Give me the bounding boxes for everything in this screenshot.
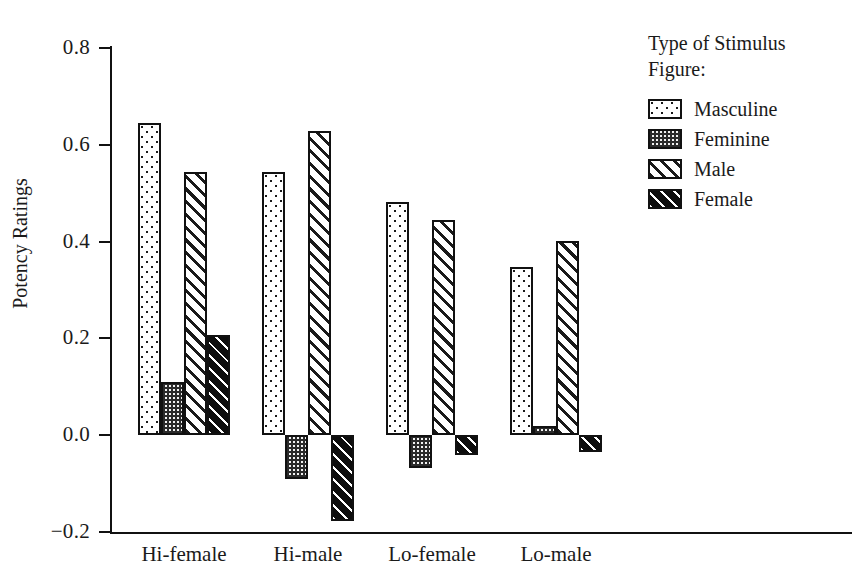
bar-lo-female-masculine bbox=[386, 202, 409, 435]
x-axis-group-label: Lo-male bbox=[476, 542, 636, 566]
y-axis-tick-label: 0.4 bbox=[28, 231, 90, 252]
legend-label: Masculine bbox=[694, 99, 777, 119]
bar-hi-male-masculine bbox=[262, 172, 285, 435]
legend-swatch-icon bbox=[648, 189, 682, 209]
bar-lo-male-male bbox=[556, 241, 579, 435]
x-axis-line bbox=[110, 532, 852, 534]
legend-items: MasculineFeminineMaleFemale bbox=[648, 94, 848, 214]
bar-lo-male-feminine bbox=[533, 426, 556, 435]
bar-hi-female-male bbox=[184, 172, 207, 435]
bar-lo-female-female bbox=[455, 435, 478, 454]
legend-swatch-icon bbox=[648, 99, 682, 119]
legend-row-female: Female bbox=[648, 184, 848, 214]
y-axis-tick-label: 0.6 bbox=[28, 134, 90, 155]
y-axis-tick-label: 0.8 bbox=[28, 37, 90, 58]
legend-label: Male bbox=[694, 159, 735, 179]
chart-figure: 0.80.60.40.20.0−0.2 Hi-femaleHi-maleLo-f… bbox=[0, 0, 852, 578]
legend-row-masculine: Masculine bbox=[648, 94, 848, 124]
y-axis-title: Potency Ratings bbox=[9, 64, 32, 424]
legend-swatch-icon bbox=[648, 129, 682, 149]
chart-legend: Type of Stimulus Figure: MasculineFemini… bbox=[648, 30, 848, 214]
bar-hi-male-feminine bbox=[285, 435, 308, 479]
bar-lo-male-masculine bbox=[510, 267, 533, 435]
y-axis-tick-label: −0.2 bbox=[28, 521, 90, 542]
legend-title-line-1: Type of Stimulus bbox=[648, 30, 848, 56]
bar-hi-male-male bbox=[308, 131, 331, 435]
bar-hi-female-female bbox=[207, 335, 230, 436]
bar-hi-female-masculine bbox=[138, 123, 161, 435]
legend-label: Female bbox=[694, 189, 753, 209]
legend-label: Feminine bbox=[694, 129, 770, 149]
bar-hi-male-female bbox=[331, 435, 354, 521]
y-axis-tick-label: 0.2 bbox=[28, 327, 90, 348]
legend-row-male: Male bbox=[648, 154, 848, 184]
bar-lo-female-male bbox=[432, 220, 455, 435]
plot-area bbox=[110, 48, 620, 532]
bar-lo-female-feminine bbox=[409, 435, 432, 467]
y-axis-tick-label: 0.0 bbox=[28, 424, 90, 445]
legend-row-feminine: Feminine bbox=[648, 124, 848, 154]
legend-swatch-icon bbox=[648, 159, 682, 179]
legend-title-line-2: Figure: bbox=[648, 56, 848, 82]
bar-lo-male-female bbox=[579, 435, 602, 452]
bar-hi-female-feminine bbox=[161, 382, 184, 435]
